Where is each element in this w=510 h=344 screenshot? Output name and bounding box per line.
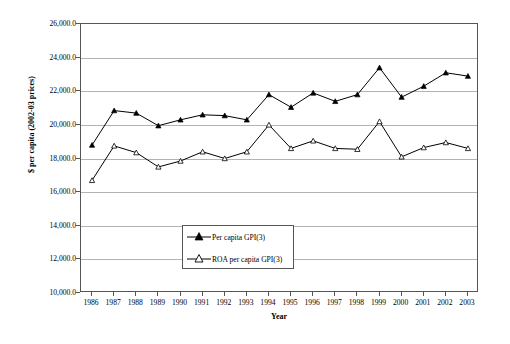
y-axis-tick-label: 26,000.0 [6,19,80,28]
data-point-marker [311,138,316,143]
x-axis-tick-mark [268,292,269,296]
y-axis-tick-label: 10,000.0 [6,288,80,297]
data-point-marker [89,142,94,147]
y-axis-ticks: 10,000.012,000.014,000.016,000.018,000.0… [0,23,80,292]
x-axis-tick-label: 2003 [447,298,487,307]
line-chart: $ per capita (2002-03 prices) 10,000.012… [0,0,510,344]
data-point-marker [443,140,448,145]
x-axis-tick-mark [246,292,247,296]
legend: Per capita GPI(3) ROA per capita GPI(3) [182,225,294,269]
x-axis-tick-mark [379,292,380,296]
y-axis-tick-label: 22,000.0 [6,86,80,95]
filled-triangle-marker-icon [186,230,212,244]
x-axis-tick-mark [290,292,291,296]
data-point-marker [399,154,404,159]
data-point-marker [178,158,183,163]
data-point-marker [112,143,117,148]
x-axis-tick-mark [423,292,424,296]
x-axis-tick-mark [113,292,114,296]
y-axis-tick-label: 14,000.0 [6,220,80,229]
data-point-marker [266,122,271,127]
legend-label: ROA per capita GPI(3) [212,255,282,264]
plot-area: Per capita GPI(3) ROA per capita GPI(3) [80,23,478,292]
data-point-marker [377,65,382,70]
series-line [92,122,468,181]
data-point-marker [311,90,316,95]
x-axis-tick-mark [91,292,92,296]
data-point-marker [200,149,205,154]
data-point-marker [89,178,94,183]
data-point-marker [421,84,426,89]
x-axis-tick-mark [467,292,468,296]
x-axis-tick-mark [334,292,335,296]
y-axis-tick-label: 24,000.0 [6,52,80,61]
x-axis-title: Year [80,312,478,321]
x-axis-tick-mark [135,292,136,296]
x-axis-tick-mark [312,292,313,296]
legend-entry-roa-per-capita-gpi3: ROA per capita GPI(3) [183,248,293,270]
y-axis-tick-label: 20,000.0 [6,119,80,128]
data-point-marker [266,92,271,97]
y-axis-tick-label: 18,000.0 [6,153,80,162]
open-triangle-marker-icon [186,252,212,266]
legend-entry-per-capita-gpi3: Per capita GPI(3) [183,226,293,248]
x-axis-tick-mark [157,292,158,296]
x-axis-tick-mark [224,292,225,296]
x-axis-tick-mark [401,292,402,296]
x-axis-tick-mark [202,292,203,296]
data-point-marker [288,105,293,110]
data-point-marker [377,119,382,124]
x-axis-tick-mark [445,292,446,296]
legend-label: Per capita GPI(3) [212,233,265,242]
series-line [92,68,468,145]
y-axis-tick-label: 12,000.0 [6,254,80,263]
y-axis-tick-label: 16,000.0 [6,187,80,196]
x-axis-tick-mark [180,292,181,296]
x-axis-tick-mark [356,292,357,296]
